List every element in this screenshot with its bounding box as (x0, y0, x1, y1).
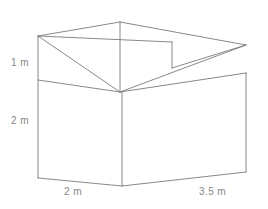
side-bottom-edge (122, 172, 246, 186)
front-face-bottom-edge (38, 178, 122, 186)
roof-ridge-line (38, 36, 172, 42)
dimension-label-width: 3.5 m (199, 186, 226, 197)
front-face-mid-edge (38, 80, 120, 92)
roof-slope-edge (120, 45, 246, 92)
diagram-canvas: 1 m 2 m 2 m 3.5 m (0, 0, 268, 209)
figure-edges (38, 22, 246, 186)
side-top-edge (120, 73, 246, 92)
dimension-label-height-side: 2 m (11, 115, 29, 126)
dimension-label-height-top: 1 m (11, 57, 29, 68)
front-face-diagonal (38, 36, 120, 92)
dimension-label-depth: 2 m (64, 186, 82, 197)
front-face-top-edge (38, 22, 120, 36)
roof-back-edge (120, 22, 246, 45)
solid-figure-svg (0, 0, 268, 209)
roof-notch-diagonal (172, 45, 246, 68)
